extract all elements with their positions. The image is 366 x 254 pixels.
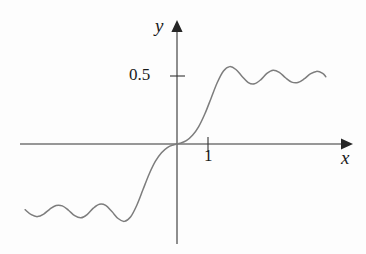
y-axis-arrowhead	[171, 20, 182, 32]
y-tick-label-0.5: 0.5	[129, 66, 150, 83]
function-plot-figure: y x 0.5 1	[0, 0, 366, 254]
x-tick-label-1: 1	[204, 147, 213, 164]
x-axis-label: x	[341, 148, 349, 167]
y-axis-label: y	[155, 16, 163, 35]
axes-group	[20, 20, 353, 244]
plot-canvas	[0, 0, 366, 254]
